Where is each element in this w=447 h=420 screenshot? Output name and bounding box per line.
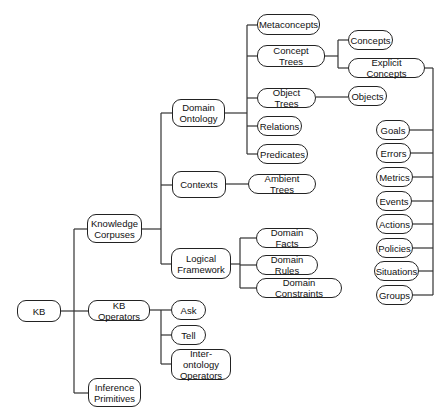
node-ask: Ask [171,300,206,320]
node-tell: Tell [171,325,206,345]
node-goals: Goals [376,120,410,140]
node-domain-constraints: Domain Constraints [256,278,342,298]
node-concepts: Concepts [348,30,393,50]
kb-tree-diagram: KB Knowledge Corpuses KB Operators Infer… [0,0,447,420]
node-kb: KB [17,300,61,322]
node-metaconcepts: Metaconcepts [257,14,320,35]
node-domain-ontology: Domain Ontology [172,99,225,127]
node-contexts: Contexts [172,171,226,198]
node-events: Events [376,191,412,211]
node-inter-ontology-operators: Inter-ontology Operators [171,349,231,380]
node-predicates: Predicates [257,144,308,164]
node-kb-operators: KB Operators [88,300,150,321]
node-relations: Relations [257,116,302,136]
node-objects: Objects [348,86,387,106]
node-metrics: Metrics [376,167,413,187]
node-logical-framework: Logical Framework [171,248,231,279]
node-domain-facts: Domain Facts [256,228,318,248]
node-policies: Policies [376,238,413,258]
node-situations: Situations [374,261,419,281]
node-object-trees: Object Trees [257,88,316,108]
node-ambient-trees: Ambient Trees [248,174,316,194]
node-actions: Actions [376,214,413,234]
node-errors: Errors [376,143,411,163]
node-inference-primitives: Inference Primitives [88,378,141,407]
node-concept-trees: Concept Trees [257,45,325,67]
node-knowledge-corpuses: Knowledge Corpuses [87,214,142,243]
node-domain-rules: Domain Rules [256,255,318,275]
node-explicit-concepts: Explicit Concepts [348,58,425,78]
node-groups: Groups [376,285,413,305]
